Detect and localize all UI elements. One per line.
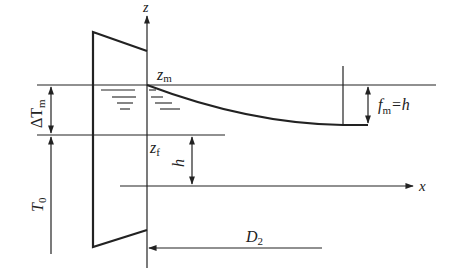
x-axis-label: x <box>418 178 426 194</box>
h-label: h <box>170 159 187 167</box>
water-surface-symbol-right <box>149 90 180 109</box>
zf-label: zf <box>149 139 160 158</box>
t0-label: T0 <box>29 197 48 212</box>
water-surface-symbol-left <box>101 90 136 109</box>
delta-tm-label: ΔTm <box>28 99 47 128</box>
d2-label: D2 <box>245 228 263 247</box>
fm-label: fm=h <box>378 96 410 116</box>
zm-label: zm <box>156 66 172 84</box>
drawdown-curve <box>147 85 368 125</box>
wall-profile-shape <box>93 32 147 247</box>
z-axis-label: z <box>142 0 149 15</box>
diagram-canvas: z fm=h x h zm zf ΔTm T <box>0 0 458 280</box>
